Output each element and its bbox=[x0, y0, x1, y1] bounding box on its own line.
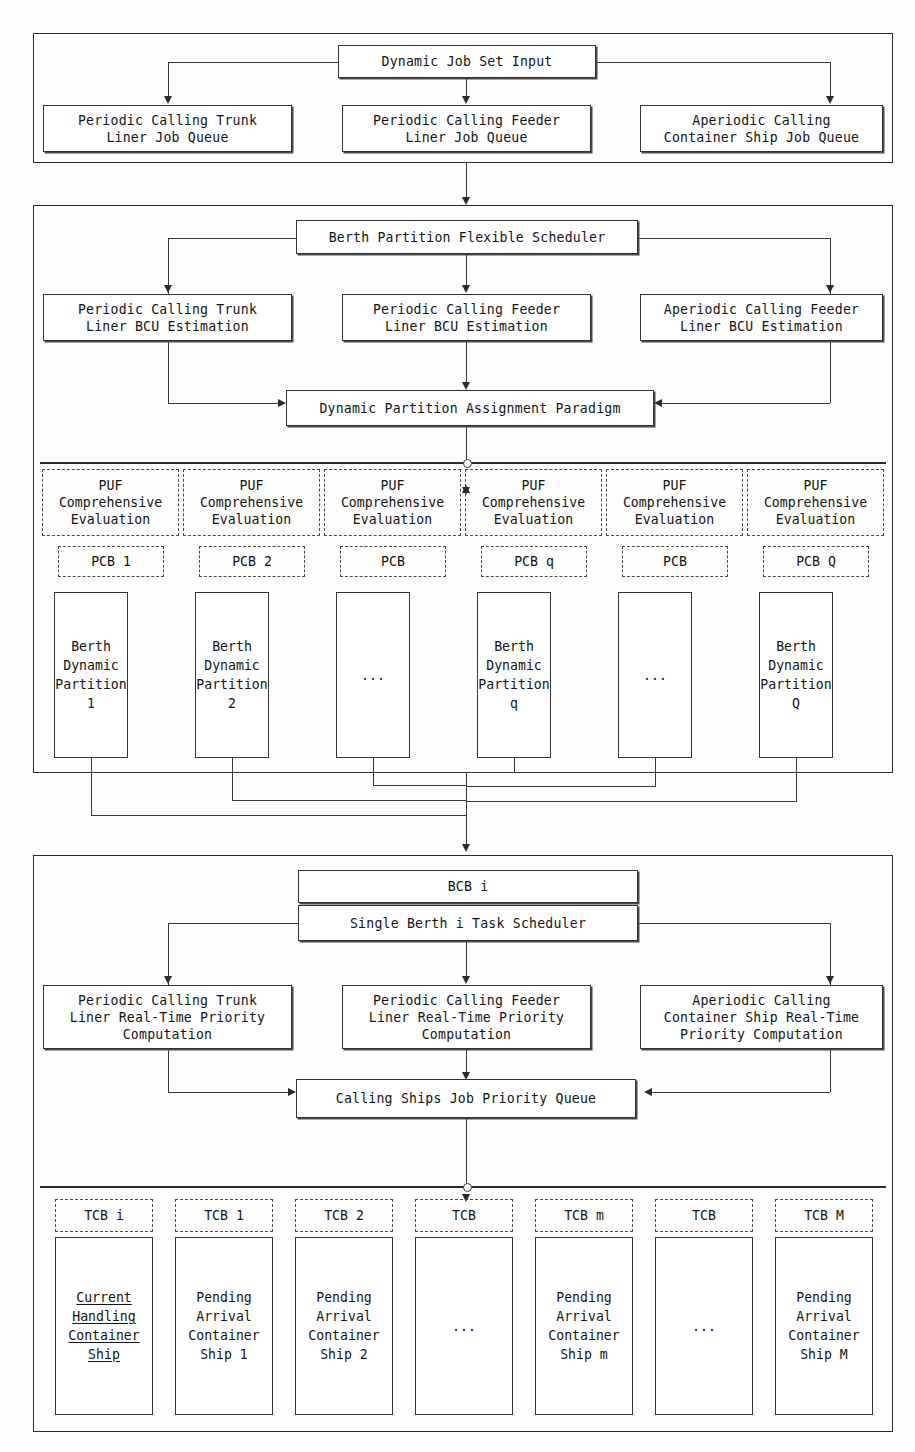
tcb-label-3[interactable]: TCB 2 bbox=[295, 1199, 393, 1232]
puf-cell-6[interactable]: PUF Comprehensive Evaluation bbox=[747, 469, 884, 536]
dynamic-partition-assignment-box[interactable]: Dynamic Partition Assignment Paradigm bbox=[286, 390, 654, 426]
s3-drop-mid bbox=[466, 941, 467, 977]
pcb-label-2-text: PCB 2 bbox=[232, 553, 272, 570]
puf-cell-2[interactable]: PUF Comprehensive Evaluation bbox=[183, 469, 320, 536]
s1-arrow-left bbox=[164, 96, 172, 104]
s1-drop-left bbox=[168, 62, 169, 97]
ship-label-4: ... bbox=[452, 1317, 476, 1336]
tcb-label-5[interactable]: TCB m bbox=[535, 1199, 633, 1232]
tcb-label-6-text: TCB bbox=[692, 1207, 716, 1224]
s3-queue-arrow-right bbox=[644, 1088, 652, 1096]
pcb-label-5-text: PCB bbox=[663, 553, 687, 570]
dynamic-job-set-input-label: Dynamic Job Set Input bbox=[382, 53, 553, 70]
single-berth-task-scheduler-box[interactable]: Single Berth i Task Scheduler bbox=[298, 905, 638, 941]
dynamic-job-set-input-box[interactable]: Dynamic Job Set Input bbox=[338, 45, 596, 78]
ship-box-7[interactable]: Pending Arrival Container Ship M bbox=[775, 1237, 873, 1415]
dynamic-partition-assignment-label: Dynamic Partition Assignment Paradigm bbox=[319, 400, 620, 417]
pcb-label-4-text: PCB q bbox=[514, 553, 554, 570]
partition-stub-1 bbox=[91, 758, 92, 816]
pcb-label-1-text: PCB 1 bbox=[91, 553, 131, 570]
berth-partition-scheduler-box[interactable]: Berth Partition Flexible Scheduler bbox=[296, 220, 638, 254]
s3-arrow-right bbox=[826, 976, 834, 984]
collector-run-6 bbox=[466, 801, 796, 802]
single-berth-task-scheduler-label: Single Berth i Task Scheduler bbox=[350, 915, 586, 932]
puf-cell-3[interactable]: PUF Comprehensive Evaluation bbox=[324, 469, 461, 536]
queue-box-trunk[interactable]: Periodic Calling Trunk Liner Job Queue bbox=[43, 105, 292, 152]
s3-drop-right bbox=[830, 923, 831, 977]
pcb-label-2[interactable]: PCB 2 bbox=[199, 546, 305, 577]
collector-trunk bbox=[466, 772, 467, 845]
pcb-label-1[interactable]: PCB 1 bbox=[58, 546, 164, 577]
tcb-label-2[interactable]: TCB 1 bbox=[175, 1199, 273, 1232]
ship-box-6[interactable]: ... bbox=[655, 1237, 753, 1415]
s2-paradigm-arrow-right bbox=[654, 399, 662, 407]
s3-drop-left bbox=[168, 923, 169, 977]
s1-to-s2-line bbox=[466, 163, 467, 198]
berth-partition-box-2[interactable]: Berth Dynamic Partition 2 bbox=[195, 592, 269, 758]
berth-partition-label-2: Berth Dynamic Partition 2 bbox=[196, 637, 267, 713]
priority-computation-feeder-label: Periodic Calling Feeder Liner Real-Time … bbox=[369, 992, 564, 1043]
puf-cell-3-label: PUF Comprehensive Evaluation bbox=[341, 477, 444, 528]
queue-box-aperiodic[interactable]: Aperiodic Calling Container Ship Job Que… bbox=[640, 105, 883, 152]
puf-cell-4[interactable]: PUF Comprehensive Evaluation bbox=[465, 469, 602, 536]
berth-partition-label-5: ... bbox=[643, 666, 667, 685]
s3-bus-left bbox=[168, 923, 298, 924]
bcu-estimation-trunk[interactable]: Periodic Calling Trunk Liner BCU Estimat… bbox=[43, 294, 292, 341]
puf-cell-6-label: PUF Comprehensive Evaluation bbox=[764, 477, 867, 528]
tcb-label-5-text: TCB m bbox=[564, 1207, 604, 1224]
tcb-label-7[interactable]: TCB M bbox=[775, 1199, 873, 1232]
berth-partition-box-1[interactable]: Berth Dynamic Partition 1 bbox=[54, 592, 128, 758]
s3-arrow-left bbox=[164, 976, 172, 984]
ship-box-3[interactable]: Pending Arrival Container Ship 2 bbox=[295, 1237, 393, 1415]
queue-tcb-junction bbox=[463, 1183, 472, 1192]
pcb-label-5[interactable]: PCB bbox=[622, 546, 728, 577]
collector-run-5 bbox=[466, 786, 655, 787]
bcu-estimation-feeder-label: Periodic Calling Feeder Liner BCU Estima… bbox=[373, 301, 560, 335]
queue-box-feeder[interactable]: Periodic Calling Feeder Liner Job Queue bbox=[342, 105, 591, 152]
bcu-estimation-aperiodic-label: Aperiodic Calling Feeder Liner BCU Estim… bbox=[664, 301, 859, 335]
berth-partition-box-4[interactable]: Berth Dynamic Partition q bbox=[477, 592, 551, 758]
s2-drop-left bbox=[168, 238, 169, 286]
priority-computation-aperiodic[interactable]: Aperiodic Calling Container Ship Real-Ti… bbox=[640, 985, 883, 1049]
berth-partition-box-6[interactable]: Berth Dynamic Partition Q bbox=[759, 592, 833, 758]
ship-label-2: Pending Arrival Container Ship 1 bbox=[188, 1288, 259, 1364]
calling-ships-job-priority-queue-box[interactable]: Calling Ships Job Priority Queue bbox=[296, 1079, 636, 1118]
bcb-box[interactable]: BCB i bbox=[298, 870, 638, 903]
puf-cell-1[interactable]: PUF Comprehensive Evaluation bbox=[42, 469, 179, 536]
puf-cell-5[interactable]: PUF Comprehensive Evaluation bbox=[606, 469, 743, 536]
pcb-label-3-text: PCB bbox=[381, 553, 405, 570]
bcu-estimation-feeder[interactable]: Periodic Calling Feeder Liner BCU Estima… bbox=[342, 294, 591, 341]
s2-drop-mid bbox=[466, 254, 467, 286]
s1-arrow-mid bbox=[462, 96, 470, 104]
s1-drop-mid bbox=[466, 78, 467, 97]
bcu-estimation-trunk-label: Periodic Calling Trunk Liner BCU Estimat… bbox=[78, 301, 257, 335]
ship-box-5[interactable]: Pending Arrival Container Ship m bbox=[535, 1237, 633, 1415]
tcb-label-7-text: TCB M bbox=[804, 1207, 844, 1224]
puf-cell-5-label: PUF Comprehensive Evaluation bbox=[623, 477, 726, 528]
berth-partition-box-3[interactable]: ... bbox=[336, 592, 410, 758]
s1-bus-right bbox=[594, 62, 830, 63]
ship-box-4[interactable]: ... bbox=[415, 1237, 513, 1415]
ship-box-1[interactable]: Current Handling Container Ship bbox=[55, 1237, 153, 1415]
pcb-label-4[interactable]: PCB q bbox=[481, 546, 587, 577]
queue-label-aperiodic: Aperiodic Calling Container Ship Job Que… bbox=[664, 112, 859, 146]
bcu-estimation-aperiodic[interactable]: Aperiodic Calling Feeder Liner BCU Estim… bbox=[640, 294, 883, 341]
partition-stub-5 bbox=[655, 758, 656, 787]
priority-computation-feeder[interactable]: Periodic Calling Feeder Liner Real-Time … bbox=[342, 985, 591, 1049]
berth-partition-box-5[interactable]: ... bbox=[618, 592, 692, 758]
priority-computation-trunk[interactable]: Periodic Calling Trunk Liner Real-Time P… bbox=[43, 985, 292, 1049]
tcb-label-4[interactable]: TCB bbox=[415, 1199, 513, 1232]
s1-to-s2-arrow bbox=[462, 197, 470, 205]
pcb-label-3[interactable]: PCB bbox=[340, 546, 446, 577]
s3-arrow-mid bbox=[462, 976, 470, 984]
s2-bus-left bbox=[168, 238, 298, 239]
s2-mid-to-paradigm bbox=[466, 341, 467, 383]
ship-box-2[interactable]: Pending Arrival Container Ship 1 bbox=[175, 1237, 273, 1415]
queue-to-tcb-line bbox=[466, 1118, 467, 1190]
queue-label-trunk: Periodic Calling Trunk Liner Job Queue bbox=[78, 112, 257, 146]
collector-arrow bbox=[462, 844, 470, 852]
pcb-label-6[interactable]: PCB Q bbox=[763, 546, 869, 577]
s1-drop-right bbox=[830, 62, 831, 97]
tcb-label-1[interactable]: TCB i bbox=[55, 1199, 153, 1232]
tcb-label-6[interactable]: TCB bbox=[655, 1199, 753, 1232]
